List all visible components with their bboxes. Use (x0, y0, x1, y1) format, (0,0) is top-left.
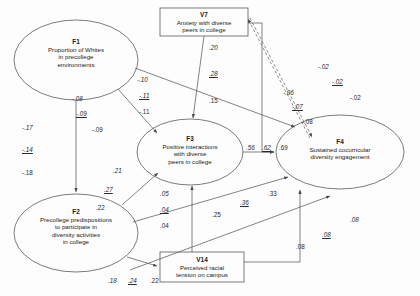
node-shape-f2 (14, 194, 138, 272)
coef-v7-f3-1: .20 (209, 44, 218, 51)
path-v14-to-f4 (244, 190, 300, 262)
coef-dashed-1: -.02 (318, 63, 329, 70)
coef-f1-f2-3: -.18 (22, 169, 33, 176)
coef-f2-f3-3: .22 (96, 204, 105, 211)
coef-v14-f3-1: .25 (212, 211, 221, 218)
coef-v7-f3-2: .28 (209, 70, 218, 77)
coef-v14-f4-3: .08 (296, 243, 305, 250)
coef-dashed-2: -.02 (332, 78, 343, 85)
path-f1-to-f3 (118, 89, 157, 133)
coef-f1-f2-1: -.17 (22, 124, 33, 131)
coef-f1-f3-1: -.08 (72, 95, 83, 102)
coef-f3-f4-2: .62 (262, 144, 271, 151)
coef-f1-f4-1: -.10 (137, 76, 148, 83)
coef-f1-f4-3: -.11 (139, 108, 149, 115)
node-shape-v14 (160, 252, 244, 282)
coef-f2-f4-2: .33 (268, 190, 277, 197)
coef-f1-f4-2: -.11 (139, 92, 149, 99)
coef-f2-v14-a3: .04 (160, 222, 169, 229)
node-shape-f1 (14, 20, 138, 100)
coef-v7-f4-3: -.08 (302, 118, 313, 125)
coef-f2-f4-1: .36 (240, 199, 249, 206)
coef-f2-f3-1: .21 (113, 167, 122, 174)
coef-f2-v14-b3: .22 (150, 277, 159, 284)
path-dashed-to-v7 (248, 19, 310, 138)
path-v7-to-f3 (193, 36, 204, 118)
coef-v14-f4-2: .08 (322, 231, 331, 238)
coef-f1-f2-2: -.14 (22, 146, 33, 153)
coef-v7-f4-2: -.07 (292, 103, 303, 110)
coef-f2-v14-b2: .24 (128, 277, 137, 284)
coef-v7-f4-1: -.06 (283, 89, 294, 96)
coef-f2-v14-b1: .18 (108, 277, 117, 284)
path-diagram-canvas: F1 Proportion of Whites in precollege en… (0, 0, 420, 296)
coef-f1-f3-2: -.09 (76, 110, 87, 117)
coef-f2-f3-2: .27 (104, 186, 113, 193)
path-f2-to-f4 (133, 177, 288, 222)
coef-f3-f4-3: .69 (279, 144, 288, 151)
coef-f2-v14-a2: .04 (160, 206, 169, 213)
coef-dashed-3: -.02 (350, 94, 361, 101)
path-f2-to-f3 (122, 173, 158, 205)
coef-f1-f3-3: -.09 (92, 126, 103, 133)
coef-f3-f4-1: .56 (246, 144, 255, 151)
node-shape-f4 (276, 115, 404, 189)
node-shape-v7 (160, 8, 248, 36)
coef-v7-f3-3: .15 (209, 97, 218, 104)
path-v7-right-bus (248, 23, 274, 152)
coef-f2-v14-a1: .05 (160, 190, 169, 197)
coef-v14-f4-1: .08 (350, 216, 359, 223)
